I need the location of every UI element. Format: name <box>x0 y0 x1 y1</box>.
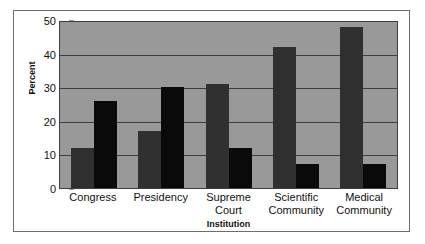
bar[interactable] <box>296 164 319 188</box>
bar[interactable] <box>229 148 252 188</box>
bar[interactable] <box>273 47 296 188</box>
x-tick-label: Medical Community <box>330 191 398 216</box>
x-tick-label: Presidency <box>127 191 195 216</box>
y-tick-label: 40 <box>26 49 56 61</box>
y-axis-tick-labels: 01020304050 <box>26 11 56 191</box>
bar[interactable] <box>363 164 386 188</box>
bar-groups <box>60 22 397 188</box>
bar-group <box>60 22 127 188</box>
bar[interactable] <box>206 84 229 188</box>
y-tick-label: 30 <box>26 82 56 94</box>
y-tick-label: 20 <box>26 116 56 128</box>
bar[interactable] <box>71 148 94 188</box>
y-tick-label: 50 <box>26 15 56 27</box>
bar-group <box>127 22 194 188</box>
x-tick-label: Supreme Court <box>195 191 263 216</box>
x-axis-tick-labels: CongressPresidencySupreme CourtScientifi… <box>59 191 398 216</box>
bar[interactable] <box>340 27 363 188</box>
bar[interactable] <box>94 101 117 188</box>
bar-group <box>195 22 262 188</box>
bar[interactable] <box>138 131 161 188</box>
bar[interactable] <box>161 87 184 188</box>
x-axis-title: Institution <box>59 219 398 229</box>
bar-group <box>330 22 397 188</box>
plot-area <box>59 21 398 189</box>
x-tick-label: Scientific Community <box>262 191 330 216</box>
y-tick-label: 0 <box>26 183 56 195</box>
chart-figure: Percent 01020304050 CongressPresidencySu… <box>13 10 410 232</box>
x-tick-label: Congress <box>59 191 127 216</box>
y-tick-label: 10 <box>26 149 56 161</box>
bar-group <box>262 22 329 188</box>
